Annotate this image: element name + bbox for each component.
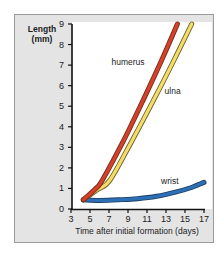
x-tick-label: 7	[106, 214, 111, 224]
ulna-label: ulna	[165, 86, 181, 96]
y-tick-label: 7	[59, 60, 64, 70]
x-tick-label: 9	[125, 214, 130, 224]
y-axis-title-line1: Length	[28, 24, 56, 34]
x-tick-label: 13	[161, 214, 171, 224]
y-tick-label: 5	[59, 101, 64, 111]
y-tick-label: 0	[59, 204, 64, 214]
y-axis-title-line2: (mm)	[32, 34, 53, 44]
x-ticks: 357911131517	[68, 209, 209, 224]
y-tick-label: 1	[59, 183, 64, 193]
humerus-label: humerus	[111, 57, 144, 67]
x-tick-label: 17	[199, 214, 209, 224]
y-tick-label: 3	[59, 142, 64, 152]
y-tick-label: 9	[59, 19, 64, 29]
wrist-label: wrist	[160, 176, 179, 186]
y-tick-label: 4	[59, 122, 64, 132]
line-chart: 0123456789 357911131517 humerusulnawrist…	[0, 0, 224, 257]
x-tick-label: 15	[180, 214, 190, 224]
y-ticks: 0123456789	[59, 19, 72, 214]
x-tick-label: 5	[87, 214, 92, 224]
y-tick-label: 6	[59, 81, 64, 91]
x-axis-title: Time after initial formation (days)	[75, 226, 199, 236]
y-tick-label: 8	[59, 40, 64, 50]
x-tick-label: 11	[142, 214, 151, 224]
plot-area	[72, 22, 212, 209]
y-tick-label: 2	[59, 163, 64, 173]
x-tick-label: 3	[68, 214, 73, 224]
